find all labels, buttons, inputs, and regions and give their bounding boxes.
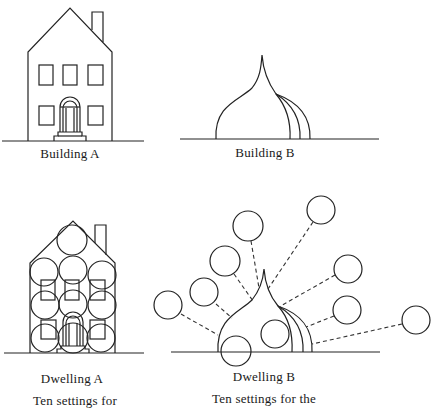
building-b-drawing (180, 55, 379, 139)
window (88, 106, 103, 125)
dwelling-b-drawing (154, 196, 430, 366)
panel-label-dwelling-a: Dwelling A (41, 371, 103, 387)
caption-dwelling-a: Ten settings for (33, 393, 117, 409)
house-outline (28, 8, 112, 141)
onion-dome (216, 55, 290, 139)
window (39, 65, 53, 85)
caption-dwelling-b: Ten settings for the (212, 391, 316, 407)
building-a-drawing (2, 8, 144, 141)
window (88, 65, 103, 85)
diagram-canvas (0, 0, 437, 411)
panel-label-building-b: Building B (235, 145, 294, 161)
house-outline (30, 221, 115, 353)
panel-label-dwelling-b: Dwelling B (233, 369, 295, 385)
window (39, 106, 54, 125)
window (63, 65, 77, 85)
panel-label-building-a: Building A (40, 146, 99, 162)
door-arch-inner (63, 101, 77, 132)
dwelling-a-drawing (4, 221, 144, 353)
setting-circles (30, 225, 116, 353)
